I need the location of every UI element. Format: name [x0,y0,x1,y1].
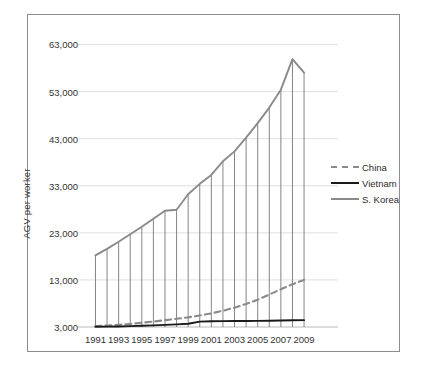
x-tick-label: 2009 [293,334,314,345]
legend-item-china[interactable]: China [331,159,403,175]
x-tick-label: 2003 [224,334,245,345]
legend-label-china: China [362,162,387,173]
legend-label-skorea: S. Korea [362,194,399,205]
legend-item-skorea[interactable]: S. Korea [331,191,403,207]
y-axis-label: AGV per worker [21,144,32,264]
legend-swatch-dashed-line-icon [331,162,359,172]
x-tick-label: 1993 [108,334,129,345]
x-tick-label: 2001 [201,334,222,345]
x-tick-label: 1997 [154,334,175,345]
legend-item-vietnam[interactable]: Vietnam [331,175,403,191]
chart-legend: China Vietnam S. Korea [331,159,403,209]
x-tick-label: 2007 [270,334,291,345]
legend-swatch-solid-gray-line-icon [331,194,359,204]
x-tick-label: 1991 [85,334,106,345]
x-tick-label: 2005 [247,334,268,345]
x-tick-label: 1999 [178,334,199,345]
x-tick-label: 1995 [131,334,152,345]
legend-label-vietnam: Vietnam [362,178,397,189]
legend-swatch-solid-line-icon [331,178,359,188]
chart-container: 3,00013,00023,00033,00043,00053,00063,00… [0,0,426,374]
